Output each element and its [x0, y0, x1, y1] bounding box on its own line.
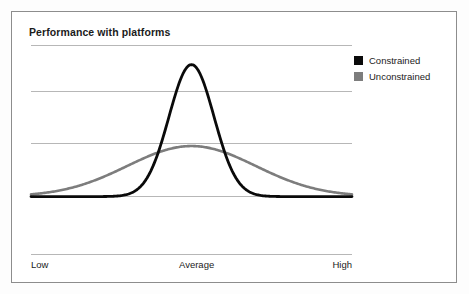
chart-card: Performance with platforms Constrained U… — [11, 11, 457, 283]
axis-separator-line — [31, 254, 352, 255]
legend-label-unconstrained: Unconstrained — [369, 71, 430, 82]
axis-tick-label-average: Average — [179, 259, 214, 270]
curves-svg — [31, 45, 352, 208]
chart-legend: Constrained Unconstrained — [354, 52, 450, 84]
figure-root: Performance with platforms Constrained U… — [0, 0, 469, 294]
series-line-unconstrained — [31, 146, 352, 194]
legend-label-constrained: Constrained — [369, 55, 420, 66]
plot-area — [31, 45, 352, 208]
series-line-constrained — [31, 65, 352, 197]
axis-tick-label-low: Low — [31, 259, 48, 270]
legend-swatch-unconstrained — [354, 72, 363, 81]
legend-swatch-constrained — [354, 56, 363, 65]
legend-item-unconstrained: Unconstrained — [354, 68, 450, 84]
axis-tick-label-high: High — [332, 259, 352, 270]
legend-item-constrained: Constrained — [354, 52, 450, 68]
axis-tick-labels: Low Average High — [31, 259, 352, 275]
chart-title: Performance with platforms — [29, 26, 170, 38]
